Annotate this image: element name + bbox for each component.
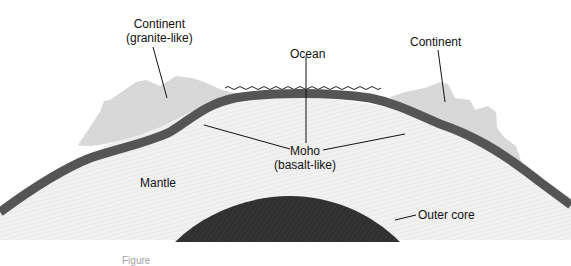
label-outer-core: Outer core [418, 208, 475, 222]
label-continent-left-subtitle: (granite-like) [126, 31, 193, 45]
label-continent-left-title: Continent [126, 17, 193, 31]
label-continent-left: Continent (granite-like) [126, 17, 193, 45]
label-moho-title: Moho [274, 144, 336, 158]
label-ocean: Ocean [290, 47, 325, 61]
label-continent-right: Continent [410, 35, 461, 49]
label-moho: Moho (basalt-like) [274, 144, 336, 172]
label-moho-subtitle: (basalt-like) [274, 158, 336, 172]
label-mantle: Mantle [140, 176, 176, 190]
figure-caption: Figure [122, 255, 150, 266]
